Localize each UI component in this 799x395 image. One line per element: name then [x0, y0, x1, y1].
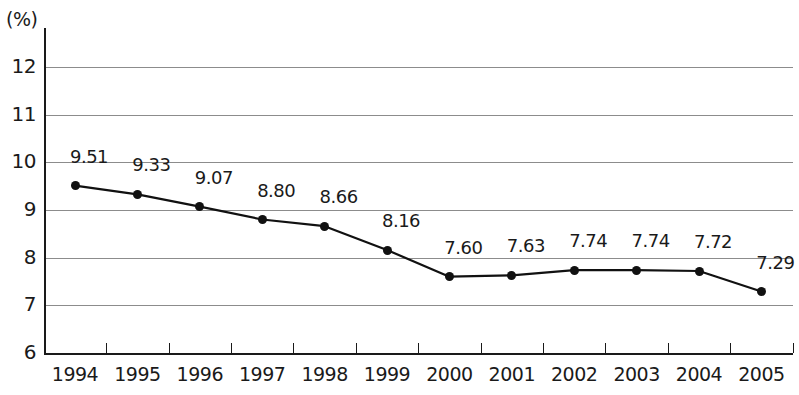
x-axis-category-label: 1994: [52, 363, 98, 385]
y-axis-line: [44, 28, 46, 355]
x-axis-tick: [169, 343, 170, 353]
x-axis-category-label: 2005: [738, 363, 784, 385]
x-axis-tick: [106, 343, 107, 353]
gridline: [44, 67, 793, 68]
data-point-marker: [570, 266, 579, 275]
x-axis-tick: [481, 343, 482, 353]
x-axis-tick: [668, 343, 669, 353]
x-axis-tick: [730, 343, 731, 353]
y-axis-tick-label: 6: [0, 340, 36, 364]
data-value-label: 7.74: [632, 230, 670, 251]
y-axis-tick-label: 9: [0, 197, 36, 221]
data-point-marker: [445, 272, 454, 281]
series-line: [0, 0, 799, 395]
x-axis-tick: [605, 343, 606, 353]
x-axis-line: [44, 353, 793, 355]
y-axis-tick-label: 10: [0, 149, 36, 173]
data-point-marker: [632, 266, 641, 275]
x-axis-category-label: 2002: [551, 363, 597, 385]
x-axis-tick: [293, 343, 294, 353]
gridline: [44, 258, 793, 259]
data-value-label: 9.33: [132, 154, 170, 175]
x-axis-tick: [418, 343, 419, 353]
y-axis-tick-label: 7: [0, 292, 36, 316]
gridline: [44, 115, 793, 116]
data-value-label: 7.29: [756, 252, 794, 273]
data-value-label: 7.60: [444, 237, 482, 258]
x-axis-category-label: 2004: [676, 363, 722, 385]
data-value-label: 9.51: [70, 146, 108, 167]
x-axis-category-label: 1996: [177, 363, 223, 385]
data-point-marker: [71, 181, 80, 190]
y-axis-tick-label: 12: [0, 54, 36, 78]
x-axis-tick: [793, 343, 794, 353]
line-chart: (%) 6789101112 9.519.339.078.808.668.167…: [0, 0, 799, 395]
data-value-label: 7.63: [507, 235, 545, 256]
data-point-marker: [258, 215, 267, 224]
x-axis-category-label: 1997: [239, 363, 285, 385]
y-axis-tick-label: 11: [0, 102, 36, 126]
x-axis-category-label: 1999: [364, 363, 410, 385]
plot-area: 6789101112 9.519.339.078.808.668.167.607…: [0, 0, 799, 395]
y-axis-tick-label: 8: [0, 245, 36, 269]
gridline: [44, 305, 793, 306]
x-axis-category-label: 2000: [426, 363, 472, 385]
data-point-marker: [133, 190, 142, 199]
x-axis-tick: [356, 343, 357, 353]
x-axis-category-label: 1998: [301, 363, 347, 385]
data-value-label: 8.66: [320, 186, 358, 207]
data-point-marker: [757, 287, 766, 296]
data-point-marker: [383, 246, 392, 255]
x-axis-category-label: 1995: [114, 363, 160, 385]
x-axis-category-label: 2003: [613, 363, 659, 385]
data-point-marker: [695, 267, 704, 276]
data-value-label: 8.16: [382, 210, 420, 231]
x-axis-tick: [231, 343, 232, 353]
data-value-label: 9.07: [195, 167, 233, 188]
x-axis-tick: [543, 343, 544, 353]
x-axis-category-label: 2001: [489, 363, 535, 385]
data-value-label: 7.74: [569, 230, 607, 251]
data-point-marker: [320, 222, 329, 231]
data-point-marker: [507, 271, 516, 280]
data-value-label: 7.72: [694, 231, 732, 252]
data-value-label: 8.80: [257, 180, 295, 201]
